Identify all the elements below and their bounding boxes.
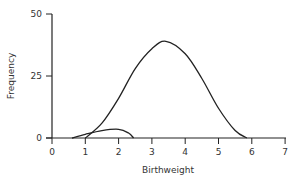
svg-text:1: 1 (82, 147, 88, 157)
svg-text:7: 7 (282, 147, 288, 157)
svg-text:3: 3 (149, 147, 155, 157)
x-ticks: 01234567 (49, 138, 288, 157)
svg-text:6: 6 (249, 147, 255, 157)
svg-text:2: 2 (116, 147, 122, 157)
svg-text:5: 5 (216, 147, 222, 157)
y-axis-label: Frequency (6, 52, 16, 99)
chart: 02550 01234567 Birthweight Frequency (0, 0, 297, 186)
svg-text:25: 25 (31, 71, 42, 81)
svg-text:50: 50 (31, 9, 43, 19)
svg-text:0: 0 (49, 147, 55, 157)
svg-text:4: 4 (182, 147, 188, 157)
low-birthweight-curve (72, 129, 134, 138)
y-ticks: 02550 (31, 9, 52, 143)
svg-text:0: 0 (36, 133, 42, 143)
x-axis-label: Birthweight (142, 165, 194, 175)
main-curve (85, 41, 247, 138)
